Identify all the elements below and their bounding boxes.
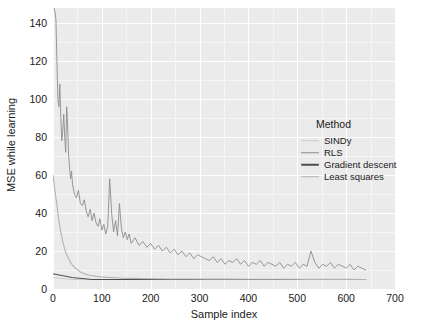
legend-title: Method [316,118,418,130]
legend: Method SINDyRLSGradient descentLeast squ… [300,118,418,183]
legend-item-label: RLS [324,147,342,158]
legend-item[interactable]: SINDy [300,135,418,146]
legend-item-label: Least squares [324,171,384,182]
y-tick-label: 120 [29,55,47,67]
x-axis-tick-labels: 0100200300400500600700 [53,291,395,309]
x-tick-label: 300 [191,292,209,304]
y-axis-title-text: MSE while learning [5,98,17,192]
x-tick-label: 600 [337,292,355,304]
y-tick-label: 80 [35,131,47,143]
x-tick-label: 100 [93,292,111,304]
x-tick-label: 200 [142,292,160,304]
y-tick-label: 40 [35,207,47,219]
x-tick-label: 700 [386,292,404,304]
legend-item-label: SINDy [324,135,351,146]
y-tick-label: 20 [35,245,47,257]
y-tick-label: 60 [35,169,47,181]
x-axis-title: Sample index [53,308,395,320]
y-tick-label: 0 [41,283,47,295]
legend-item[interactable]: Gradient descent [300,159,418,170]
legend-key-icon [300,159,320,170]
y-tick-label: 100 [29,93,47,105]
y-axis-tick-labels: 020406080100120140 [22,0,51,290]
legend-items: SINDyRLSGradient descentLeast squares [300,135,418,182]
x-tick-label: 500 [289,292,307,304]
x-tick-label: 400 [240,292,258,304]
series-line [53,175,366,279]
legend-item[interactable]: Least squares [300,171,418,182]
legend-key-icon [300,135,320,146]
x-tick-label: 0 [50,292,56,304]
legend-key-icon [300,147,320,158]
chart-figure: MSE while learning 020406080100120140 01… [0,0,422,333]
y-tick-label: 140 [29,17,47,29]
legend-key-icon [300,171,320,182]
legend-item[interactable]: RLS [300,147,418,158]
y-axis-title: MSE while learning [0,0,22,290]
legend-item-label: Gradient descent [324,159,396,170]
